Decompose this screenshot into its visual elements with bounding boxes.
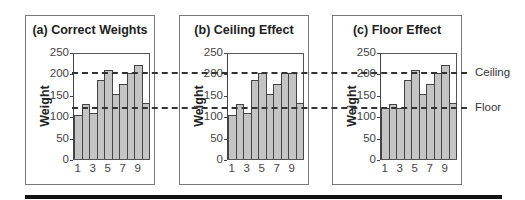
x-tick-label: 3 [87, 162, 99, 174]
y-tick-label: 150 [348, 89, 376, 101]
x-tick-label: 9 [439, 162, 451, 174]
y-tick-label: 250 [348, 46, 376, 58]
reference-line-ceiling [72, 72, 467, 74]
chart-panel: (b) Ceiling EffectWeight0501001502002501… [179, 15, 309, 185]
x-tick-label: 1 [72, 162, 84, 174]
y-tick-label: 150 [195, 89, 223, 101]
reference-label-ceiling: Ceiling [475, 66, 510, 78]
y-tick-mark [70, 160, 73, 161]
chart-title: (b) Ceiling Effect [180, 23, 308, 37]
y-tick-mark [377, 160, 380, 161]
x-tick-label: 7 [424, 162, 436, 174]
y-tick-label: 250 [41, 46, 69, 58]
x-tick-label: 3 [241, 162, 253, 174]
bar [142, 103, 151, 159]
y-tick-label: 100 [41, 110, 69, 122]
chart-title: (a) Correct Weights [26, 23, 154, 37]
y-tick-label: 100 [348, 110, 376, 122]
reference-line-floor [72, 107, 467, 109]
y-tick-mark [224, 160, 227, 161]
y-tick-label: 0 [195, 153, 223, 165]
y-tick-label: 100 [195, 110, 223, 122]
y-tick-label: 0 [348, 153, 376, 165]
x-tick-label: 5 [256, 162, 268, 174]
reference-label-floor: Floor [475, 101, 501, 113]
bar [449, 103, 458, 159]
x-tick-label: 9 [286, 162, 298, 174]
y-tick-label: 200 [41, 67, 69, 79]
y-tick-label: 150 [41, 89, 69, 101]
bar [296, 103, 305, 159]
y-tick-label: 50 [41, 132, 69, 144]
y-tick-label: 50 [348, 132, 376, 144]
x-tick-label: 1 [226, 162, 238, 174]
x-tick-label: 7 [271, 162, 283, 174]
x-tick-label: 1 [379, 162, 391, 174]
x-tick-label: 9 [132, 162, 144, 174]
chart-title: (c) Floor Effect [333, 23, 461, 37]
x-tick-label: 7 [117, 162, 129, 174]
bottom-rule [25, 195, 502, 199]
chart-panel: (c) Floor EffectWeight050100150200250135… [332, 15, 462, 185]
chart-panel: (a) Correct WeightsWeight050100150200250… [25, 15, 155, 185]
y-tick-label: 250 [195, 46, 223, 58]
x-tick-label: 3 [394, 162, 406, 174]
y-tick-label: 0 [41, 153, 69, 165]
x-tick-label: 5 [102, 162, 114, 174]
y-tick-label: 50 [195, 132, 223, 144]
x-tick-label: 5 [409, 162, 421, 174]
